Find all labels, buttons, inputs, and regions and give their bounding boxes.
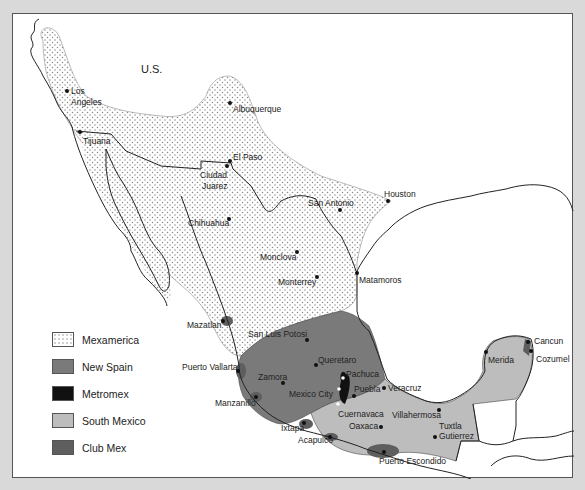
legend-label-club-mex: Club Mex bbox=[82, 442, 126, 454]
city-label-zamora: Zamora bbox=[258, 372, 288, 382]
city-label-cancun: Cancun bbox=[534, 336, 564, 346]
legend-item-south-mexico: South Mexico bbox=[52, 407, 146, 434]
city-label-manzanillo: Manzanillo bbox=[215, 398, 256, 408]
legend-swatch-club-mex bbox=[52, 440, 74, 455]
city-label-tuxtla-gutierrez-2: Gutierrez bbox=[439, 431, 474, 441]
city-label-tijuana: Tijuana bbox=[83, 136, 111, 146]
city-label-cuernavaca: Cuernavaca bbox=[338, 409, 384, 419]
city-label-mazatlan: Mazatlan bbox=[187, 320, 222, 330]
country-label-us: U.S. bbox=[141, 63, 162, 75]
legend-swatch-mexamerica bbox=[52, 332, 74, 347]
city-label-oaxaca: Oaxaca bbox=[349, 421, 379, 431]
city-label-pachuca: Pachuca bbox=[346, 369, 379, 379]
city-label-houston: Houston bbox=[384, 189, 416, 199]
city-label-los-angeles-2: Angeles bbox=[71, 97, 102, 107]
legend-item-new-spain: New Spain bbox=[52, 353, 146, 380]
region-mexamerica bbox=[41, 28, 391, 356]
city-label-chihuahua: Chihuahua bbox=[188, 218, 229, 228]
city-label-ixtapa: Ixtapa bbox=[281, 423, 304, 433]
city-label-mexico-city: Mexico City bbox=[289, 389, 334, 399]
city-label-el-paso: El Paso bbox=[233, 152, 263, 162]
city-label-cozumel: Cozumel bbox=[536, 354, 570, 364]
legend-swatch-metromex bbox=[52, 386, 74, 401]
city-label-ciudad-juarez: Ciudad bbox=[200, 170, 227, 180]
city-label-tuxtla-gutierrez: Tuxtla bbox=[439, 421, 462, 431]
city-label-monterrey: Monterrey bbox=[278, 277, 317, 287]
city-label-san-luis-potosi: San Luis Potosi bbox=[248, 329, 307, 339]
city-label-puebla: Puebla bbox=[354, 384, 381, 394]
legend-swatch-south-mexico bbox=[52, 413, 74, 428]
legend-label-mexamerica: Mexamerica bbox=[82, 334, 139, 346]
legend-label-south-mexico: South Mexico bbox=[82, 415, 146, 427]
legend-item-mexamerica: Mexamerica bbox=[52, 326, 146, 353]
city-label-puerto-escondido: Puerto Escondido bbox=[379, 456, 446, 466]
city-label-villahermosa: Villahermosa bbox=[392, 410, 441, 420]
city-label-ciudad-juarez-2: Juarez bbox=[202, 181, 228, 191]
legend-item-club-mex: Club Mex bbox=[52, 434, 146, 461]
city-label-matamoros: Matamoros bbox=[359, 275, 402, 285]
city-label-monclova: Monclova bbox=[260, 252, 297, 262]
coastline-gulf bbox=[357, 185, 573, 403]
city-label-albuquerque: Albuquerque bbox=[233, 104, 281, 114]
legend-item-metromex: Metromex bbox=[52, 380, 146, 407]
city-label-puerto-vallarta: Puerto Vallarta bbox=[182, 362, 238, 372]
map-legend: Mexamerica New Spain Metromex South Mexi… bbox=[52, 326, 146, 461]
city-label-queretaro: Queretaro bbox=[318, 355, 357, 365]
city-label-veracruz: Veracruz bbox=[388, 383, 422, 393]
city-label-san-antonio: San Antonio bbox=[308, 198, 354, 208]
city-label-merida: Merida bbox=[488, 355, 514, 365]
legend-swatch-new-spain bbox=[52, 359, 74, 374]
legend-label-new-spain: New Spain bbox=[82, 361, 133, 373]
legend-label-metromex: Metromex bbox=[82, 388, 129, 400]
city-label-acapulco: Acapulco bbox=[298, 435, 333, 445]
city-label-los-angeles: Los bbox=[71, 86, 85, 96]
